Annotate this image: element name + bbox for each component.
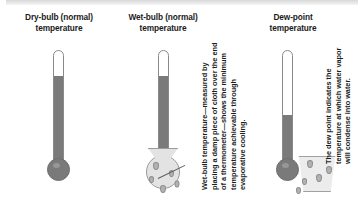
title-wet-bulb-line1: Wet-bulb (normal): [104, 12, 222, 23]
droplet-icon: [160, 185, 166, 193]
thermometer-tube-dew: [282, 50, 293, 166]
caption-wet-bulb: Wet-bulb temperature—measured by placing…: [200, 40, 248, 190]
caption-dew-point: The dew point indicates the temperature …: [324, 40, 353, 164]
bulb-highlight-dry: [53, 163, 60, 168]
mercury-column-dry: [54, 76, 63, 165]
title-dry-bulb-line1: Dry-bulb (normal): [0, 12, 118, 23]
title-dew-point-line2: temperature: [238, 23, 348, 34]
title-dry-bulb-line2: temperature: [0, 23, 118, 34]
column-dew-point: Dew-point temperature The dew point indi…: [244, 0, 362, 213]
title-wet-bulb-line2: temperature: [104, 23, 222, 34]
droplet-icon: [296, 187, 301, 194]
bulb-highlight-dew: [282, 163, 289, 168]
figure-canvas: Dry-bulb (normal) temperature Wet-bulb (…: [0, 0, 362, 213]
title-dew-point-line1: Dew-point: [238, 12, 348, 23]
column-wet-bulb: Wet-bulb (normal) temperature Wet-bulb t…: [118, 0, 244, 213]
thermometer-bulb-dew: [276, 158, 299, 181]
column-dry-bulb: Dry-bulb (normal) temperature: [0, 0, 118, 213]
title-dry-bulb: Dry-bulb (normal) temperature: [0, 12, 118, 34]
thermometer-tube-dry: [53, 50, 64, 166]
title-wet-bulb: Wet-bulb (normal) temperature: [104, 12, 222, 34]
droplet-icon: [175, 181, 180, 188]
title-dew-point: Dew-point temperature: [238, 12, 348, 34]
thermometer-bulb-dry: [47, 158, 70, 181]
